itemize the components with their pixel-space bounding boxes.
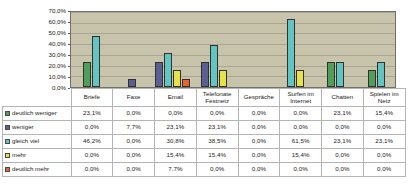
table-cell-value: 38,5% [196,135,238,149]
bar-cluster [356,12,396,87]
bar [201,62,209,87]
bar-cluster [234,12,275,87]
table-body: deutlich weniger23,1%0,0%0,0%0,0%0,0%0,0… [3,107,406,177]
bar-cluster [275,12,316,87]
bar [83,62,91,87]
table-cell-value: 0,0% [71,121,113,135]
table-cell-value: 0,0% [238,107,280,121]
table-cell-value: 0,0% [363,121,405,135]
y-axis: 70,0%60,0%50,0%40,0%30,0%20,0%10,0%0,0% [28,11,68,88]
legend-label: deutlich mehr [12,165,49,172]
table-cell-value: 15,4% [363,107,405,121]
plot-area [70,11,396,88]
bar-cluster [316,12,357,87]
table-cell-value: 15,4% [280,149,322,163]
table-cell-value: 7,7% [113,121,155,135]
table-cell-value: 0,0% [113,149,155,163]
table-cell-value: 0,0% [238,135,280,149]
y-axis-tick-label: 60,0% [48,19,66,25]
table-row: gleich viel46,2%0,0%30,8%38,5%0,0%61,5%2… [3,135,406,149]
legend-entry: mehr [3,149,72,163]
y-axis-tick-label: 40,0% [48,41,66,47]
table-cell-value: 0,0% [71,163,113,177]
legend-label: deutlich weniger [12,109,57,116]
bar [164,53,172,87]
bar-cluster [71,12,112,87]
plot-wrapper [70,11,396,88]
table-cell-value: 0,0% [363,149,405,163]
bar [155,62,163,87]
table-cell-value: 23,1% [155,121,197,135]
legend-swatch-icon [5,125,10,130]
table-header-row: BriefeFaxeEmailTelefonateFestnetzGespräc… [3,89,406,107]
legend-entry: gleich viel [3,135,72,149]
table-cell-value: 0,0% [238,149,280,163]
table-row: deutlich weniger23,1%0,0%0,0%0,0%0,0%0,0… [3,107,406,121]
table-cell-value: 0,0% [113,107,155,121]
legend-label: mehr [12,151,26,158]
table-row: mehr0,0%0,0%15,4%15,4%0,0%15,4%0,0%0,0% [3,149,406,163]
bar [182,79,190,87]
table-column-header: Briefe [71,89,113,107]
y-axis-tick-label: 30,0% [48,52,66,58]
legend-label: weniger [12,123,34,130]
legend-entry: deutlich weniger [3,107,72,121]
legend-swatch-icon [5,153,10,158]
table-cell-value: 15,4% [196,149,238,163]
data-table: BriefeFaxeEmailTelefonateFestnetzGespräc… [2,88,406,177]
bar-cluster [193,12,234,87]
table-cell-value: 0,0% [238,163,280,177]
table-cell-value: 61,5% [280,135,322,149]
bar [287,19,295,87]
legend-swatch-icon [5,111,10,116]
legend-swatch-icon [5,167,10,172]
table-cell-value: 0,0% [155,107,197,121]
y-axis-tick-label: 20,0% [48,63,66,69]
table-row: weniger0,0%7,7%23,1%23,1%0,0%0,0%0,0%0,0… [3,121,406,135]
y-axis-tick-label: 10,0% [48,74,66,80]
table-column-header: Faxe [113,89,155,107]
table-column-header: Email [155,89,197,107]
table-cell-value: 0,0% [322,163,364,177]
table-cell-value: 0,0% [280,107,322,121]
bar [296,70,304,87]
table-cell-value: 23,1% [71,107,113,121]
table-cell-value: 0,0% [363,163,405,177]
table-cell-value: 23,1% [196,121,238,135]
bar [336,62,344,87]
legend-label: gleich viel [12,137,39,144]
bar-cluster [153,12,194,87]
table-cell-value: 0,0% [196,163,238,177]
table-cell-value: 30,8% [155,135,197,149]
table-column-header: Surfen imInternet [280,89,322,107]
legend-entry: weniger [3,121,72,135]
table-cell-value: 0,0% [196,107,238,121]
table-row: deutlich mehr0,0%0,0%7,7%0,0%0,0%0,0%0,0… [3,163,406,177]
bar [92,36,100,87]
bar [327,62,335,87]
table-column-header: TelefonateFestnetz [196,89,238,107]
legend-entry: deutlich mehr [3,163,72,177]
y-axis-tick-label: 50,0% [48,30,66,36]
table-column-header: Gespräche [238,89,280,107]
table-corner-cell [3,89,72,107]
table-column-header: Spielen imNetz [363,89,405,107]
bar [173,70,181,87]
bar-cluster [112,12,153,87]
bar [219,70,227,87]
y-axis-tick-label: 70,0% [48,8,66,14]
table-cell-value: 23,1% [322,135,364,149]
bar [210,45,218,87]
table-cell-value: 0,0% [280,121,322,135]
table-cell-value: 23,1% [363,135,405,149]
table-cell-value: 46,2% [71,135,113,149]
table-cell-value: 0,0% [71,149,113,163]
bar [368,70,376,87]
table-cell-value: 15,4% [155,149,197,163]
legend-swatch-icon [5,139,10,144]
table-cell-value: 0,0% [280,163,322,177]
table-cell-value: 0,0% [113,135,155,149]
table-cell-value: 0,0% [113,163,155,177]
table-cell-value: 0,0% [322,149,364,163]
chart-figure: 70,0%60,0%50,0%40,0%30,0%20,0%10,0%0,0% … [0,0,412,187]
